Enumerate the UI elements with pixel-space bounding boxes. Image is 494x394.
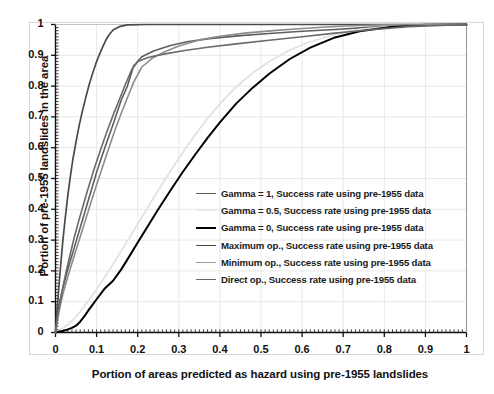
legend-item: Minimum op., Success rate using pre-1955… [196, 254, 461, 271]
legend-color-swatch [196, 262, 216, 263]
legend-color-swatch [196, 193, 216, 194]
legend-item: Gamma = 0.5, Success rate using pre-1955… [196, 202, 461, 219]
x-tick-label: 0.9 [405, 343, 445, 355]
legend-item: Gamma = 1, Success rate using pre-1955 d… [196, 185, 461, 202]
y-tick-label: 0 [4, 325, 44, 337]
legend-color-swatch [196, 210, 216, 211]
x-tick-label: 0.4 [200, 343, 240, 355]
legend-item: Maximum op., Success rate using pre-1955… [196, 237, 461, 254]
legend-item-label: Gamma = 0, Success rate using pre-1955 d… [221, 222, 423, 233]
legend-item-label: Maximum op., Success rate using pre-1955… [221, 240, 433, 251]
x-tick-label: 0.6 [282, 343, 322, 355]
x-tick-label: 0 [36, 343, 76, 355]
x-tick-label: 0.5 [241, 343, 281, 355]
x-tick-label: 0.8 [364, 343, 404, 355]
x-tick-label: 0.7 [323, 343, 363, 355]
y-axis-title: Portion of pre-1955 landslides in the ar… [38, 26, 50, 306]
legend-color-swatch [196, 279, 216, 280]
legend-color-swatch [196, 245, 216, 246]
major-ticks-layer [51, 25, 467, 338]
legend-item: Direct op., Success rate using pre-1955 … [196, 271, 461, 288]
x-tick-label: 1 [447, 343, 487, 355]
legend-item-label: Minimum op., Success rate using pre-1955… [221, 257, 431, 268]
chart-legend: Gamma = 1, Success rate using pre-1955 d… [196, 185, 461, 288]
legend-color-swatch [196, 227, 216, 229]
x-tick-label: 0.1 [77, 343, 117, 355]
legend-item-label: Gamma = 1, Success rate using pre-1955 d… [221, 188, 423, 199]
x-tick-label: 0.2 [118, 343, 158, 355]
legend-item-label: Direct op., Success rate using pre-1955 … [221, 274, 416, 285]
legend-item: Gamma = 0, Success rate using pre-1955 d… [196, 219, 461, 236]
legend-item-label: Gamma = 0.5, Success rate using pre-1955… [221, 205, 431, 216]
x-axis-title: Portion of areas predicted as hazard usi… [40, 368, 480, 380]
chart-figure: 00.10.20.30.40.50.60.70.80.91 00.10.20.3… [0, 0, 494, 394]
x-tick-label: 0.3 [159, 343, 199, 355]
